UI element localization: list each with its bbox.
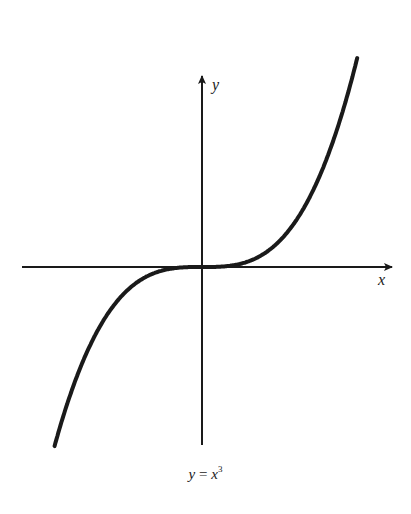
chart-caption: y = x3 bbox=[0, 464, 411, 483]
caption-exponent: 3 bbox=[218, 464, 223, 474]
cubic-function-plot bbox=[0, 0, 411, 514]
x-axis-label: x bbox=[378, 271, 385, 289]
caption-base: x bbox=[211, 466, 218, 482]
y-axis-label: y bbox=[212, 76, 219, 94]
caption-equals: = bbox=[195, 466, 211, 482]
cubic-curve bbox=[55, 58, 358, 446]
